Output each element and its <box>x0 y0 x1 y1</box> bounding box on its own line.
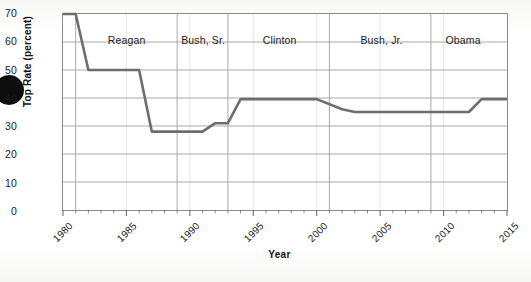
chart-figure: Top Rate (percent) 010203040506070 Reaga… <box>0 0 531 282</box>
y-tick-label: 60 <box>0 35 17 47</box>
administration-label: Obama <box>446 34 481 46</box>
x-tick-label: 2000 <box>306 220 330 244</box>
x-tick-label: 2005 <box>369 220 393 244</box>
y-axis-title: Top Rate (percent) <box>22 0 33 127</box>
x-tick-label: 1990 <box>178 220 202 244</box>
administration-label: Bush, Jr. <box>360 34 402 46</box>
y-tick-label: 70 <box>0 7 17 19</box>
y-tick-label: 20 <box>0 148 17 160</box>
administration-label: Reagan <box>108 34 146 46</box>
y-tick-label: 30 <box>0 120 17 132</box>
x-tick-label: 2010 <box>433 220 457 244</box>
x-axis-title: Year <box>0 249 531 260</box>
x-tick-label: 2015 <box>497 220 521 244</box>
x-tick-label: 1995 <box>242 220 266 244</box>
x-tick-label: 1980 <box>51 220 75 244</box>
scan-artifact-dot <box>0 75 24 105</box>
x-tick-label: 1985 <box>114 220 138 244</box>
y-tick-label: 50 <box>0 64 17 76</box>
x-axis-title-text: Year <box>268 249 290 260</box>
plot-area: ReaganBush, Sr.ClintonBush, Jr.Obama <box>62 13 508 211</box>
administration-label: Bush, Sr. <box>181 34 225 46</box>
y-tick-label: 0 <box>0 205 17 217</box>
y-tick-label: 10 <box>0 177 17 189</box>
administration-label: Clinton <box>263 34 297 46</box>
